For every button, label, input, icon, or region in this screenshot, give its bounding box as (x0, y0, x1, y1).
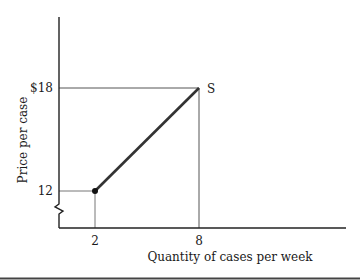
x-tick-8: 8 (195, 234, 203, 248)
curve-start-point (92, 188, 98, 194)
y-tick-12: 12 (38, 184, 53, 198)
y-axis-title: Price per case (16, 97, 30, 184)
supply-curve (95, 88, 199, 191)
supply-chart: $18 12 2 8 S Quantity of cases per week … (0, 0, 360, 280)
y-tick-18: $18 (30, 81, 53, 95)
x-tick-2: 2 (91, 234, 99, 248)
x-axis-title: Quantity of cases per week (147, 250, 313, 264)
curve-label-s: S (207, 82, 215, 96)
y-axis (55, 17, 63, 228)
